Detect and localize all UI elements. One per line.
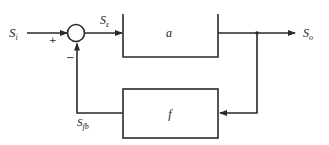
feedback-signal-label: Sfb [77,116,89,131]
output-signal-label: So [303,26,313,42]
input-signal-label: Si [9,25,18,42]
forward-block-label: a [166,26,172,40]
feedback-block-label: f [168,107,173,121]
error-signal-label: Sε [100,13,110,29]
minus-sign: − [66,52,74,63]
feedback-path-out [77,44,123,114]
plus-sign: + [49,35,57,45]
summing-junction [68,25,85,42]
feedback-block-diagram: Si + − Sε a So f Sfb [0,0,329,145]
feedback-path-in [220,33,257,113]
